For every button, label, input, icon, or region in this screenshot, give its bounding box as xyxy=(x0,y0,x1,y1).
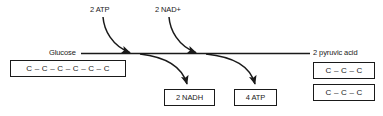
reactant-label-glucose: Glucose xyxy=(49,49,76,57)
molecule-box-pyruvate-2: C – C – C xyxy=(313,84,375,101)
glucose-formula: C – C – C – C – C – C xyxy=(26,65,109,73)
product-box-atp: 4 ATP xyxy=(234,89,277,106)
molecule-box-glucose: C – C – C – C – C – C xyxy=(10,60,126,77)
pyruvate-formula-1: C – C – C xyxy=(326,67,363,75)
input-label-nad-plus: 2 NAD+ xyxy=(155,6,181,14)
pyruvate-formula-2: C – C – C xyxy=(326,89,363,97)
glycolysis-diagram: 2 ATP 2 NAD+ Glucose 2 pyruvic acid C – … xyxy=(0,0,383,116)
input-label-atp: 2 ATP xyxy=(90,6,109,14)
arrow-atp-output xyxy=(206,54,255,84)
molecule-box-pyruvate-1: C – C – C xyxy=(313,62,375,79)
product-box-nadh: 2 NADH xyxy=(164,89,215,106)
product-label-pyruvic-acid: 2 pyruvic acid xyxy=(313,49,357,57)
atp-label: 4 ATP xyxy=(246,94,265,102)
arrow-atp-input xyxy=(103,17,130,53)
arrow-nadh-output xyxy=(140,54,187,84)
nadh-label: 2 NADH xyxy=(176,94,203,102)
arrow-nad-input xyxy=(169,17,196,53)
